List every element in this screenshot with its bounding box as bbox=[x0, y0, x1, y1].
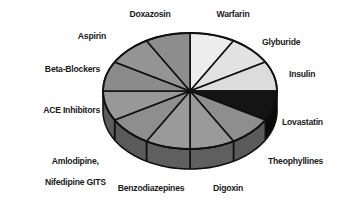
slice-label-insulin: Insulin bbox=[289, 69, 352, 80]
slice-label-aspirin: Aspirin bbox=[39, 31, 106, 42]
pie-chart-figure: Doxazosin Warfarin Aspirin Glyburide Bet… bbox=[0, 0, 362, 206]
slice-label-ace-inhibitors: ACE Inhibitors bbox=[11, 105, 100, 116]
slice-label-digoxin: Digoxin bbox=[202, 183, 254, 194]
slice-label-glyburide: Glyburide bbox=[262, 37, 346, 48]
slice-label-theophyllines: Theophyllines bbox=[268, 156, 354, 167]
slice-label-amlodipine-line2: Nifedipine GITS bbox=[45, 177, 106, 187]
slice-label-amlodipine-line1: Amlodipine, bbox=[52, 156, 99, 166]
slice-label-benzodiazepines: Benzodiazepines bbox=[107, 183, 194, 194]
slice-label-lovastatin: Lovastatin bbox=[282, 117, 356, 128]
slice-label-doxazosin: Doxazosin bbox=[111, 9, 189, 20]
slice-label-amlodipine: Amlodipine, Nifedipine GITS bbox=[22, 145, 121, 198]
slice-label-warfarin: Warfarin bbox=[199, 9, 268, 20]
slice-label-beta-blockers: Beta-Blockers bbox=[14, 64, 100, 75]
